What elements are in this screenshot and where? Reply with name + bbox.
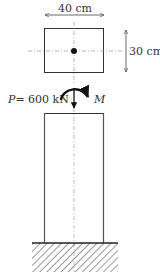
cross-section: 40 cm 30 cm: [28, 2, 160, 84]
width-label: 40 cm: [58, 2, 93, 15]
moment-label: M: [93, 93, 106, 106]
centroid-dot: [71, 48, 77, 54]
loads: P= 600 kN M: [7, 88, 106, 108]
ground-hatch: [32, 243, 118, 272]
height-label: 30 cm: [129, 45, 160, 58]
fixed-support: [32, 243, 118, 272]
column-diagram: 40 cm 30 cm P= 600 kN M: [0, 0, 160, 272]
